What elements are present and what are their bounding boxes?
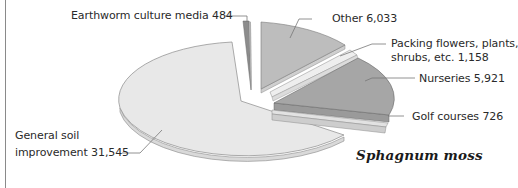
label-other: Other 6,033	[332, 12, 397, 25]
label-packing-line2: shrubs, etc. 1,158	[391, 51, 489, 64]
label-general-line1: General soil	[15, 129, 79, 142]
label-packing-line1: Packing flowers, plants,	[391, 37, 518, 50]
label-golf: Golf courses 726	[412, 110, 503, 123]
slice-earthworm-culture-media	[243, 21, 252, 90]
chart-title: Sphagnum moss	[356, 147, 483, 163]
label-earthworm: Earthworm culture media 484	[71, 9, 233, 22]
label-nurseries: Nurseries 5,921	[419, 72, 505, 85]
label-general-line2: improvement 31,545	[15, 146, 129, 159]
